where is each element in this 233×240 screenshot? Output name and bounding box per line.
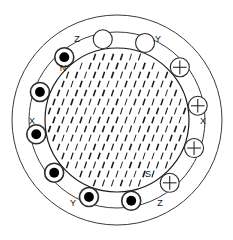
stator-coil-x-fill [45, 163, 64, 182]
stator-coil-z-open [93, 30, 112, 49]
pole-label-north: N [60, 63, 67, 73]
machine-cross-section-diagram: ZYXXYZ NS [0, 0, 233, 240]
coil-outline-circle [136, 33, 155, 52]
phase-label-y-bottom: Y [70, 198, 76, 208]
phase-label-y-top: Y [155, 34, 161, 44]
diagram-canvas: ZYXXYZ NS [0, 0, 233, 240]
stator-coil-z-dot [79, 188, 98, 207]
coil-dot-marker [126, 196, 136, 206]
stator-coil-z-dot [122, 191, 141, 210]
stator-coil-x-plus [188, 96, 207, 115]
pole-label-south: S [145, 169, 151, 179]
stator-coil-y-fill [30, 82, 49, 101]
coil-outline-circle [93, 30, 112, 49]
stator-coil-z-open [136, 33, 155, 52]
phase-label-x-left: X [29, 116, 35, 126]
coil-dot-marker [35, 87, 45, 97]
stator-coil-x-fill [27, 125, 46, 144]
coil-dot-marker [49, 168, 59, 178]
coil-dot-marker [84, 192, 94, 202]
phase-label-z-bottom: Z [157, 198, 163, 208]
stator-coil-y-plus [160, 173, 179, 192]
coil-dot-marker [59, 52, 69, 62]
phase-label-z-top: Z [74, 34, 80, 44]
stator-coil-y-plus [185, 139, 204, 158]
phase-label-x-right: X [200, 116, 206, 126]
coil-dot-marker [31, 129, 41, 139]
stator-coil-x-plus [170, 58, 189, 77]
